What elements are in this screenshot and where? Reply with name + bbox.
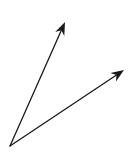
two-vectors-diagram — [0, 0, 138, 152]
vector-shallow-arrowhead-icon — [110, 70, 124, 81]
arrows-group — [10, 22, 124, 146]
